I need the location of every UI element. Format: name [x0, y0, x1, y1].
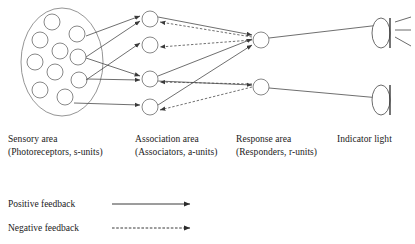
edge-association-response: [158, 45, 252, 105]
associator-unit: [142, 71, 158, 87]
photoreceptor-unit: [47, 64, 63, 80]
responder-unit: [253, 79, 269, 95]
indicator-light-top: [372, 17, 411, 48]
caption-indicator-light: Indicator light: [337, 133, 415, 146]
associator-unit: [142, 99, 158, 115]
response-to-association-edges: [160, 22, 252, 110]
wire-to-indicator-light: [269, 25, 380, 38]
responder-unit: [253, 32, 269, 48]
edge-sensory-association: [86, 43, 140, 80]
photoreceptor-unit: [27, 54, 43, 70]
photoreceptor-unit: [32, 32, 48, 48]
photoreceptor-unit: [69, 26, 85, 42]
edge-response-association: [160, 22, 252, 37]
edge-response-association: [160, 40, 252, 47]
response-to-indicator-edges: [269, 25, 380, 98]
legend-label-negative-feedback: Negative feedback: [8, 222, 79, 234]
indicator-light-bottom: [372, 85, 390, 115]
lamp-bulb-icon: [372, 85, 390, 115]
diagram-root: Sensory area (Photoreceptors, s-units) A…: [0, 0, 415, 244]
sensory-area-group: [21, 8, 103, 116]
wire-to-indicator-light: [269, 88, 380, 98]
light-ray-icon: [395, 37, 411, 46]
caption-sensory-area: Sensory area (Photoreceptors, s-units): [8, 133, 136, 158]
associator-unit: [142, 11, 158, 27]
legend-sample-lines: [112, 204, 190, 228]
photoreceptor-unit: [70, 49, 86, 65]
edge-response-association: [160, 87, 252, 110]
associator-unit: [142, 37, 158, 53]
edge-association-response: [158, 17, 252, 35]
photoreceptor-unit: [44, 14, 60, 30]
response-area-group: [253, 32, 269, 95]
photoreceptor-unit: [71, 72, 87, 88]
association-area-group: [142, 11, 158, 115]
photoreceptor-unit: [57, 89, 73, 105]
edge-sensory-association: [74, 103, 140, 105]
photoreceptor-unit: [52, 43, 68, 59]
association-to-response-edges: [158, 17, 252, 105]
lamp-bulb-icon: [372, 18, 390, 48]
edge-sensory-association: [86, 58, 140, 76]
light-ray-icon: [395, 17, 411, 22]
photoreceptor-unit: [32, 82, 48, 98]
edge-sensory-association: [87, 79, 140, 80]
legend-label-positive-feedback: Positive feedback: [8, 198, 75, 210]
edge-association-response: [158, 39, 252, 76]
